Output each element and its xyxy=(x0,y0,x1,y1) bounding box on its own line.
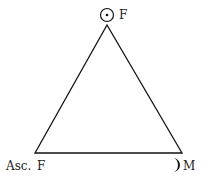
moon-icon xyxy=(173,158,180,172)
sun-icon xyxy=(101,9,114,22)
ascendant-prefix: Asc. xyxy=(6,160,31,172)
triangle xyxy=(35,25,182,153)
top-vertex-label: F xyxy=(119,9,127,21)
right-vertex-label: M xyxy=(183,160,195,172)
left-vertex-label: F xyxy=(37,160,45,172)
triangle-diagram xyxy=(0,0,210,180)
